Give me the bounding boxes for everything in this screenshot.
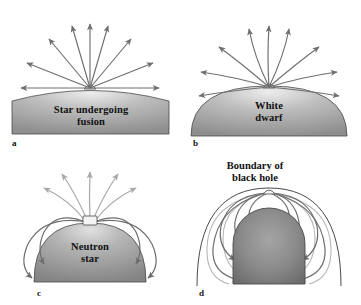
panel-a-object-label: Star undergoing fusion [30,104,152,128]
panel-b-letter: b [193,139,198,148]
emission-point-c [83,216,97,225]
light-rays-a [21,24,159,88]
black-hole-sphere [233,208,305,284]
panel-c-object-label: Neutron star [50,241,130,265]
panel-d: Boundary of black hole d [181,152,361,305]
panel-b: White dwarf b [181,0,361,152]
panel-c: Neutron star c [0,152,181,305]
figure-light-rays-compact-objects: Star undergoing fusion a [0,0,361,305]
panel-b-diagram [181,0,361,152]
light-rays-b [199,26,339,96]
light-rays-escaping-c [44,172,136,222]
panel-c-diagram [0,152,181,305]
panel-a-letter: a [12,139,17,148]
panel-b-object-label: White dwarf [229,100,309,124]
panel-a-diagram [0,0,181,152]
emission-point-d [263,190,275,194]
panel-a: Star undergoing fusion a [0,0,181,152]
panel-c-letter: c [37,289,41,298]
panel-d-letter: d [199,289,204,298]
panel-d-object-label: Boundary of black hole [195,160,315,184]
